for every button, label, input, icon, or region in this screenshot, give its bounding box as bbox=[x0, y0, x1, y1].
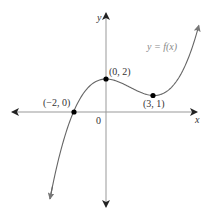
point-0-2 bbox=[103, 76, 108, 81]
function-label: y = f(x) bbox=[146, 41, 178, 53]
point-label-neg2-0: (−2, 0) bbox=[43, 97, 70, 109]
y-axis-label: y bbox=[96, 12, 102, 23]
function-graph: y x 0 y = f(x) (−2, 0) (0, 2) (3, 1) bbox=[0, 0, 209, 223]
point-neg2-0 bbox=[71, 109, 76, 114]
x-axis-label: x bbox=[194, 114, 200, 125]
curve-arrow-left bbox=[50, 187, 52, 199]
point-label-3-1: (3, 1) bbox=[143, 98, 165, 110]
point-label-0-2: (0, 2) bbox=[109, 66, 131, 78]
origin-label: 0 bbox=[96, 115, 101, 126]
